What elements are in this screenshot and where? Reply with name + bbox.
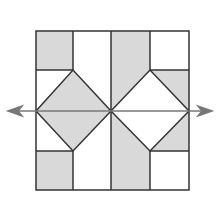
bottom-center-shape [111, 111, 150, 190]
bottom-left-square [36, 151, 73, 190]
top-center-shape [111, 31, 150, 111]
top-left-square [36, 31, 73, 70]
quilt-diagram [0, 0, 218, 218]
